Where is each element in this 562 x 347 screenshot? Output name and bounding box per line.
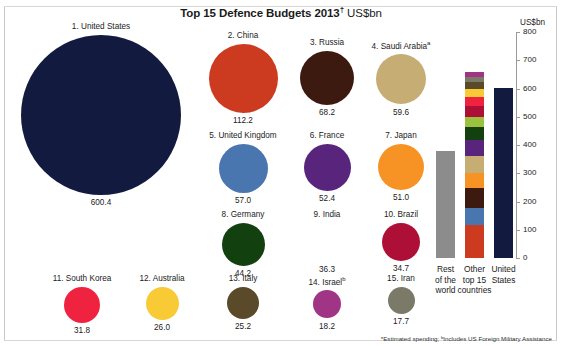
bar-segment-italy — [465, 82, 484, 89]
bubble-united-kingdom: 5. United Kingdom57.0 — [195, 131, 291, 206]
bubble-circle — [222, 223, 265, 266]
bubble-circle — [219, 144, 268, 193]
bubble-united-states: 1. United States600.4 — [17, 22, 185, 208]
y-axis-tick — [516, 32, 520, 33]
infographic-root: Top 15 Defence Budgets 2013† US$bn 1. Un… — [0, 0, 562, 347]
y-axis-tick-label: 600 — [523, 84, 536, 93]
bubble-disc-wrap — [353, 52, 449, 107]
bubble-value: 17.7 — [353, 316, 449, 327]
chart-title-unit: US$bn — [347, 7, 382, 19]
bar-united-states — [494, 88, 513, 258]
bubble-disc-wrap — [17, 32, 185, 197]
bubble-label: 5. United Kingdom — [195, 131, 291, 141]
page-border-right — [556, 6, 557, 341]
bubble-circle — [378, 144, 424, 190]
bar-caption-line: United — [485, 264, 522, 275]
bubble-value: 600.4 — [17, 197, 185, 208]
bar-segment-japan — [465, 173, 484, 188]
bubble-circle — [21, 35, 181, 195]
bubble-label-footnote-marker: a — [427, 40, 430, 46]
bar-segment-united-kingdom — [465, 208, 484, 225]
y-axis-unit-label: US$bn — [520, 18, 545, 27]
bubble-circle — [376, 54, 426, 104]
bar-segment-saudi-arabia — [465, 156, 484, 174]
bubble-disc-wrap — [195, 41, 291, 115]
y-axis-tick — [516, 202, 520, 203]
bar-caption-line: States — [485, 275, 522, 286]
chart-title-dagger: † — [340, 5, 344, 14]
bubble-label: 7. Japan — [353, 131, 449, 141]
bubble-label: 2. China — [195, 31, 291, 41]
bar-caption-united-states: UnitedStates — [485, 264, 522, 285]
bubble-label: 8. Germany — [195, 210, 291, 220]
bubble-value: 51.0 — [353, 192, 449, 203]
bubble-label: 10. Brazil — [353, 210, 449, 220]
chart-title-main: Top 15 Defence Budgets 2013 — [180, 7, 339, 19]
bubble-label: 4. Saudi Arabiaa — [353, 38, 449, 52]
y-axis-tick-label: 800 — [523, 27, 536, 36]
bubble-disc-wrap — [195, 220, 291, 268]
bar-rest-of-world — [436, 151, 455, 258]
y-axis-tick-label: 200 — [523, 197, 536, 206]
y-axis-tick — [516, 258, 520, 259]
y-axis-tick-label: 300 — [523, 168, 536, 177]
y-axis-tick — [516, 89, 520, 90]
bar-segment-australia — [465, 89, 484, 97]
bar-segment-germany — [465, 127, 484, 140]
bubble-italy: 13. Italy25.2 — [195, 274, 291, 332]
bubble-label: 1. United States — [17, 22, 185, 32]
bubble-circle — [313, 290, 341, 318]
bubble-value: 59.6 — [353, 107, 449, 118]
bubble-circle — [227, 287, 259, 319]
bubble-circle — [209, 44, 278, 113]
bubble-label-footnote-marker: b — [342, 276, 345, 282]
bubble-circle — [304, 144, 351, 191]
y-axis-tick-label: 500 — [523, 112, 536, 121]
chart-title: Top 15 Defence Budgets 2013† US$bn — [0, 5, 562, 19]
bubble-label: 13. Italy — [195, 274, 291, 284]
bar-segment-france — [465, 140, 484, 155]
bubble-germany: 8. Germany44.2 — [195, 210, 291, 279]
bar-segment-russia — [465, 188, 484, 208]
bar-segment-south-korea — [465, 97, 484, 106]
bar-segment-brazil — [465, 106, 484, 116]
bubble-circle — [388, 287, 415, 314]
bubble-value: 25.2 — [195, 321, 291, 332]
bubble-disc-wrap — [195, 284, 291, 321]
y-axis-tick — [516, 145, 520, 146]
bubble-disc-wrap — [353, 141, 449, 192]
bar-other-top-15 — [465, 72, 484, 258]
bubble-circle — [382, 223, 420, 261]
bubble-disc-wrap — [353, 220, 449, 263]
bubble-saudi-arabia: 4. Saudi Arabiaa59.6 — [353, 38, 449, 118]
bubble-value: 112.2 — [195, 115, 291, 126]
y-axis-tick — [516, 230, 520, 231]
bar-segment-india — [465, 117, 484, 128]
y-axis-tick — [516, 117, 520, 118]
bubble-china: 2. China112.2 — [195, 31, 291, 126]
y-axis-tick-label: 100 — [523, 225, 536, 234]
page-border-left — [4, 6, 5, 341]
bubble-circle — [146, 287, 179, 320]
bar-caption-line: countries — [456, 285, 493, 296]
y-axis-tick-label: 700 — [523, 55, 536, 64]
bubble-circle — [308, 223, 347, 262]
bubble-circle — [64, 287, 100, 323]
y-axis-tick — [516, 60, 520, 61]
bubble-disc-wrap — [195, 141, 291, 195]
bar-segment-china — [465, 225, 484, 258]
bubble-japan: 7. Japan51.0 — [353, 131, 449, 203]
bubble-value: 57.0 — [195, 195, 291, 206]
footnote: *Estimated spending; ᵇIncludes US Foreig… — [381, 335, 552, 342]
y-axis-tick-label: 400 — [523, 140, 536, 149]
y-axis-tick — [516, 173, 520, 174]
y-axis-tick-label: 0 — [523, 253, 527, 262]
bubble-circle — [300, 51, 354, 105]
